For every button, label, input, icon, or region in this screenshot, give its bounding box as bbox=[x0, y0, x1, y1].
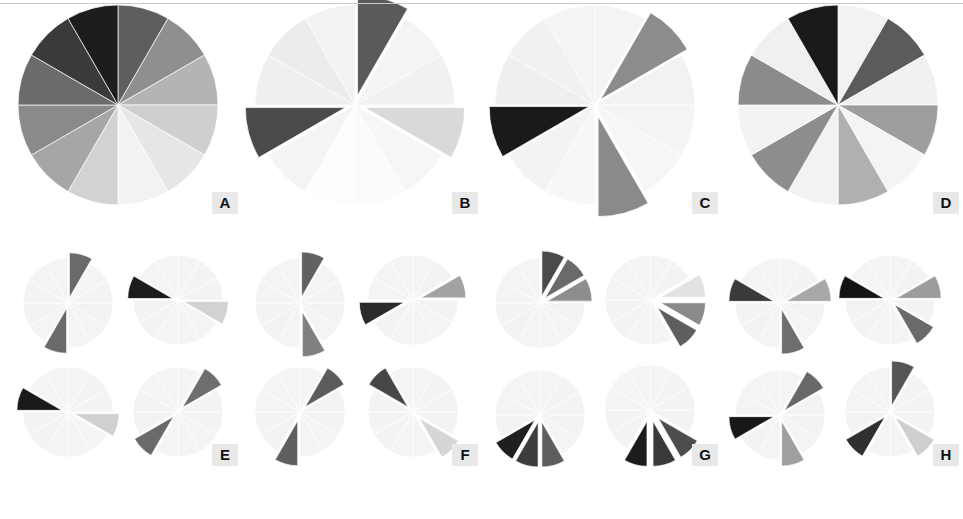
pie-panel-g-sub-3 bbox=[495, 370, 585, 467]
panel-container bbox=[0, 0, 963, 519]
pie-panel-g-sub-2 bbox=[605, 255, 705, 347]
panel-label-b: B bbox=[452, 192, 478, 214]
panel-label-f: F bbox=[452, 444, 478, 466]
pie-panel-e-sub-3 bbox=[17, 367, 119, 457]
pie-panel-e-sub-2 bbox=[128, 255, 228, 345]
panel-label-a: A bbox=[212, 192, 238, 214]
panel-label-g: G bbox=[692, 444, 718, 466]
pie-panel-f-sub-2 bbox=[359, 255, 466, 345]
pie-panel-h-sub-4 bbox=[845, 361, 935, 457]
panel-label-h: H bbox=[933, 444, 959, 466]
pie-panel-f-sub-3 bbox=[255, 367, 345, 466]
figure-svg bbox=[0, 0, 963, 519]
pie-panel-h-sub-1 bbox=[729, 258, 831, 354]
pie-panel-a bbox=[18, 5, 218, 205]
panel-label-d: D bbox=[933, 192, 959, 214]
panel-label-c: C bbox=[692, 192, 718, 214]
pie-panel-h-sub-2 bbox=[839, 255, 941, 345]
pie-panel-b bbox=[245, 0, 464, 205]
pie-panel-e-sub-4 bbox=[133, 367, 223, 457]
pie-panel-g-sub-4 bbox=[605, 365, 697, 466]
pie-panel-g-sub-1 bbox=[495, 251, 592, 348]
figure-canvas: ABCDEFGH bbox=[0, 0, 963, 519]
panel-label-e: E bbox=[212, 444, 238, 466]
pie-panel-f-sub-1 bbox=[255, 252, 345, 357]
top-rule-divider bbox=[0, 3, 963, 4]
pie-panel-e-sub-1 bbox=[23, 253, 113, 353]
pie-panel-h-sub-3 bbox=[729, 370, 825, 466]
pie-panel-c bbox=[489, 5, 695, 217]
pie-panel-d bbox=[738, 5, 938, 205]
pie-panel-f-sub-4 bbox=[368, 367, 458, 457]
